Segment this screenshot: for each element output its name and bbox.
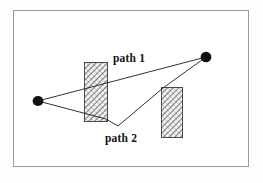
goal-node: [201, 52, 212, 62]
figure-root: path 1 path 2: [0, 0, 263, 183]
obstacle-right-hatch-overlay: [162, 88, 183, 138]
obstacle-left-hatch-overlay: [85, 63, 108, 122]
diagram-canvas: path 1 path 2: [0, 0, 263, 183]
path-1-label: path 1: [113, 52, 145, 65]
start-node: [33, 96, 44, 106]
path-2-label: path 2: [105, 132, 137, 145]
